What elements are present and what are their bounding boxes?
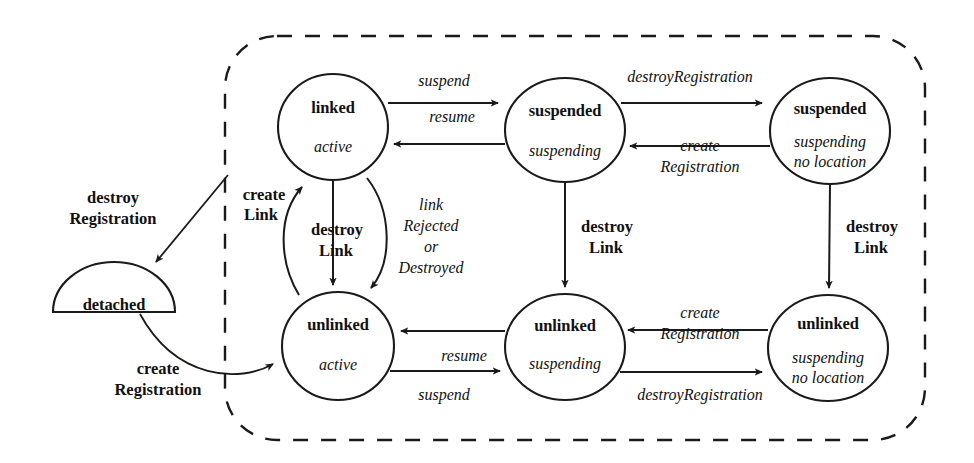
label-destroy-link-col3-2: Link [854,238,889,257]
state-unlinked-no-location-sub: suspending [792,349,864,367]
label-registration-bottom: Registration [659,325,739,343]
state-suspended-suspending-no-location[interactable]: suspended suspending no location [770,78,890,184]
transition-destroy-registration-to-detached [156,175,228,262]
state-detached[interactable]: detached [53,262,175,314]
label-destroyregistration-bottom: destroyRegistration [637,386,763,404]
transition-destroylink-column3 [829,184,830,288]
state-unlinked-suspending-sub: suspending [529,355,601,373]
label-destroy-link-col1-2: Link [319,241,354,260]
state-unlinked-suspending-shape [505,294,625,400]
state-suspended-no-location-sub: suspending [794,133,866,151]
state-unlinked-suspending-no-location[interactable]: unlinked suspending no location [768,295,888,401]
state-unlinked-active-name: unlinked [307,315,369,334]
label-create-link-2: Link [244,205,279,224]
state-suspended-suspending-name: suspended [529,101,601,120]
label-create-registration-1: create [137,359,180,378]
state-linked-active-sub: active [314,138,352,155]
state-unlinked-active-shape [282,292,394,400]
label-create-registration-2: Registration [114,380,201,399]
label-destroyed: Destroyed [397,259,464,277]
label-link: link [419,196,444,213]
label-create-top: create [680,137,719,154]
label-destroyregistration-top: destroyRegistration [627,68,753,86]
state-suspended-suspending[interactable]: suspended suspending [505,78,625,182]
state-unlinked-active[interactable]: unlinked active [282,292,394,400]
label-destroy-registration-1: destroy [87,188,140,207]
state-unlinked-suspending-name: unlinked [534,316,596,335]
label-resume-bottom: resume [441,347,487,364]
label-create-bottom: create [680,304,719,321]
label-destroy-registration-2: Registration [69,209,156,228]
state-diagram-canvas: detached linked active suspended suspend… [0,0,974,463]
label-registration-top: Registration [659,158,739,176]
state-unlinked-suspending[interactable]: unlinked suspending [505,294,625,400]
label-create-link-1: create [243,185,286,204]
state-suspended-suspending-sub: suspending [529,142,601,160]
state-suspended-no-location-name: suspended [794,99,866,118]
transition-link-rejected-or-destroyed [367,178,387,288]
label-suspend-bottom: suspend [418,386,471,404]
label-resume-top: resume [429,108,475,125]
state-linked-active-name: linked [311,98,354,117]
transition-createlink [284,187,302,295]
state-suspended-suspending-shape [505,78,625,182]
state-unlinked-no-location-sub2: no location [792,369,864,386]
label-destroy-link-col2-2: Link [589,238,624,257]
state-detached-label: detached [83,295,145,314]
state-unlinked-no-location-name: unlinked [797,314,859,333]
state-linked-active-shape [278,74,388,180]
state-linked-active[interactable]: linked active [278,74,388,180]
label-destroy-link-col2-1: destroy [581,217,634,236]
label-rejected: Rejected [402,217,459,235]
state-diagram-svg: detached linked active suspended suspend… [0,0,974,463]
label-destroy-link-col3-1: destroy [846,217,899,236]
label-or: or [424,238,439,255]
state-suspended-no-location-sub2: no location [794,153,866,170]
label-destroy-link-col1-1: destroy [311,220,364,239]
state-unlinked-active-sub: active [319,356,357,373]
label-suspend-top: suspend [418,72,471,90]
